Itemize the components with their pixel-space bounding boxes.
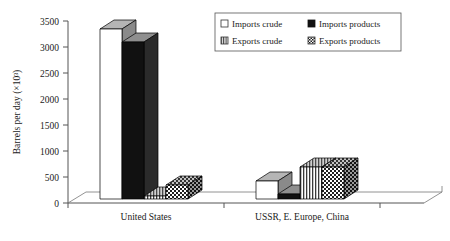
crosshatch-square-icon: [308, 37, 315, 44]
y-axis-title: Barrels per day (×10³): [12, 70, 23, 154]
bar-front-face: [256, 181, 278, 199]
y-tick-label-2000: 2000: [40, 95, 59, 105]
y-tick-group-500: 500: [45, 173, 68, 183]
y-tick-label-500: 500: [45, 173, 60, 183]
y-tick-label-1500: 1500: [40, 121, 59, 131]
y-tick-label-3000: 3000: [40, 43, 59, 53]
y-tick-group-1000: 1000: [40, 147, 68, 157]
y-tick-group-1500: 1500: [40, 121, 68, 131]
bar-front-face: [144, 196, 166, 199]
x-category-label-united-states: United States: [121, 212, 172, 222]
white-square-icon: [221, 20, 228, 27]
bar-chart: 3500 3000 2500 2000 1500 1000 500 0: [0, 0, 450, 241]
legend-label-exports-crude: Exports crude: [232, 36, 282, 46]
y-tick-group-2000: 2000: [40, 95, 68, 105]
bar-united-states-exports-products: [166, 176, 202, 199]
bar-side-face: [144, 33, 158, 199]
y-tick-label-2500: 2500: [40, 69, 59, 79]
bar-united-states-imports-products: [122, 33, 158, 199]
y-tick-label-3500: 3500: [40, 17, 59, 27]
black-square-icon: [308, 20, 315, 27]
bar-front-face: [166, 185, 188, 199]
y-tick-group-3500: 3500: [40, 17, 68, 27]
x-category-label-ussr-e-europe-china: USSR, E. Europe, China: [255, 212, 350, 222]
bar-front-face: [122, 42, 144, 199]
y-tick-label-0: 0: [54, 199, 59, 209]
y-axis: 3500 3000 2500 2000 1500 1000 500 0: [40, 17, 68, 209]
y-tick-label-1000: 1000: [40, 147, 59, 157]
y-tick-group-2500: 2500: [40, 69, 68, 79]
legend-label-imports-products: Imports products: [319, 19, 381, 29]
bar-front-face: [300, 167, 322, 199]
legend-entry-imports-products: Imports products: [308, 19, 381, 29]
floor-left-edge: [68, 192, 86, 203]
legend-entry-exports-products: Exports products: [308, 36, 381, 46]
bar-front-face: [100, 29, 122, 199]
chart-legend: Imports crude Imports products Exports c…: [215, 13, 401, 51]
y-tick-group-3000: 3000: [40, 43, 68, 53]
floor-right-edge: [424, 192, 442, 203]
x-axis: United States USSR, E. Europe, China: [68, 203, 380, 222]
bar-front-face: [278, 194, 300, 199]
legend-label-imports-crude: Imports crude: [232, 19, 282, 29]
legend-label-exports-products: Exports products: [319, 36, 381, 46]
bar-ussr-e-europe-china-exports-products: [322, 158, 358, 199]
vlines-square-icon: [221, 37, 228, 44]
bar-front-face: [322, 167, 344, 199]
y-tick-group-0: 0: [54, 199, 68, 209]
